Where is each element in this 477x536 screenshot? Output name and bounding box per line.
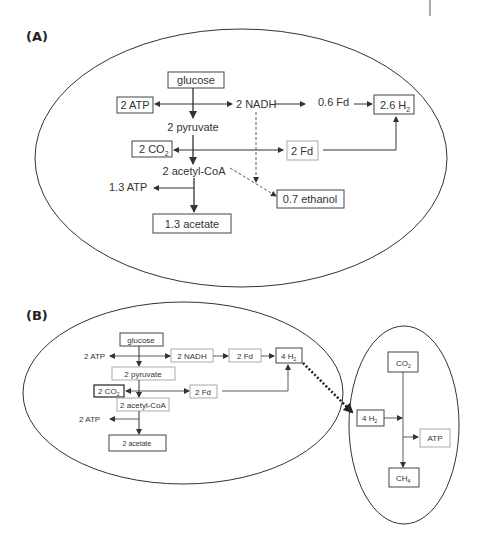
pyruvate-label: 2 pyruvate <box>167 121 218 133</box>
diagram-canvas: (A) glucose 2 ATP 2 NADH 0.6 Fd 2.6 H2 2… <box>0 0 477 536</box>
glucose-label: glucose <box>177 74 215 86</box>
b-atp-bottom-label: 2 ATP <box>79 415 100 424</box>
b-right-atp-label: ATP <box>428 434 443 443</box>
panel-a-label: (A) <box>26 29 48 44</box>
cell-ellipse-a <box>35 29 447 287</box>
b-co2-label: 2 CO2 <box>98 387 120 397</box>
acetate-label: 1.3 acetate <box>165 218 219 230</box>
acetylcoa-label: 2 acetyl-CoA <box>163 165 227 177</box>
b-acetylcoa-label: 2 acetyl-CoA <box>120 401 166 410</box>
b-fd-top-label: 2 Fd <box>237 352 253 361</box>
panel-b: (B) glucose 2 ATP 2 NADH 2 Fd 4 H2 2 pyr… <box>23 302 459 524</box>
b-nadh-label: 2 NADH <box>177 352 207 361</box>
arrow-fd-h2-b <box>323 117 396 150</box>
ethanol-label: 0.7 ethanol <box>283 193 337 205</box>
b-pyruvate-label: 2 pyruvate <box>124 370 162 379</box>
fd06-label: 0.6 Fd <box>318 96 349 108</box>
h2-transfer-arrow <box>303 363 352 412</box>
panel-b-label: (B) <box>26 308 48 323</box>
atp13-label: 1.3 ATP <box>109 181 147 193</box>
atp-label: 2 ATP <box>120 99 149 111</box>
dashed-acetylcoa-ethanol <box>230 168 276 196</box>
panel-a: (A) glucose 2 ATP 2 NADH 0.6 Fd 2.6 H2 2… <box>26 29 447 287</box>
b-fd-mid-label: 2 Fd <box>195 388 211 397</box>
co2-label: 2 CO2 <box>139 143 169 157</box>
h2-label: 2.6 H2 <box>380 99 410 113</box>
b-glucose-label: glucose <box>127 336 155 345</box>
b-arrow-fd-h2-b <box>222 365 288 391</box>
b-acetate-label: 2 acetate <box>123 440 152 447</box>
b-atp-left-label: 2 ATP <box>84 352 105 361</box>
fd2-label: 2 Fd <box>291 145 313 157</box>
cell-ellipse-b-left <box>23 302 343 484</box>
nadh-label: 2 NADH <box>236 98 276 110</box>
